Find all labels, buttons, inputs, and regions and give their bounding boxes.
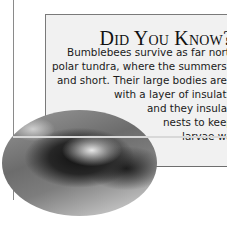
body-line: nests to keep (163, 115, 227, 129)
body-line: with a layer of insulatir (114, 87, 227, 101)
body-line: and short. Their large bodies are c (57, 73, 227, 87)
body-line: and they insulat (147, 101, 227, 115)
photo-divider-line (13, 136, 227, 138)
body-line: Bumblebees survive as far north (67, 45, 227, 59)
body-line: polar tundra, where the summers a (52, 59, 227, 73)
bumblebee-photo (2, 110, 157, 216)
